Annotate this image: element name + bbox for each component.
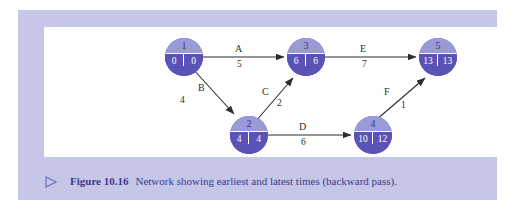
node-2-times: 4 4 xyxy=(230,132,268,154)
edge-a-duration-label: 5 xyxy=(237,60,242,70)
node-4-times: 10 12 xyxy=(354,132,392,154)
edge-f-duration-label: 1 xyxy=(401,101,406,111)
edge-f-line xyxy=(376,78,425,120)
edge-e-duration-label: 7 xyxy=(362,60,367,70)
network-node-4[interactable]: 4 10 12 xyxy=(354,116,392,154)
edge-c-duration-label: 2 xyxy=(277,99,282,109)
figure-number: Figure 10.16 xyxy=(70,175,128,187)
figure-caption-body: Network showing earliest and latest time… xyxy=(135,175,396,187)
node-2-header: 2 xyxy=(230,116,268,132)
edge-c-activity-label: C xyxy=(262,87,269,97)
node-3-times: 6 6 xyxy=(287,54,325,76)
node-1-latest: 0 xyxy=(184,54,203,67)
node-2-number: 2 xyxy=(247,119,252,129)
edge-b-activity-label: B xyxy=(198,83,205,93)
node-3-header: 3 xyxy=(287,38,325,54)
node-4-earliest: 10 xyxy=(354,132,373,145)
edge-c-line xyxy=(256,78,293,121)
node-3-number: 3 xyxy=(304,41,309,51)
figure-frame: 1 0 0 2 4 4 3 xyxy=(18,10,497,200)
network-node-1[interactable]: 1 0 0 xyxy=(165,38,203,76)
node-3-earliest: 6 xyxy=(287,54,306,67)
node-2-latest: 4 xyxy=(249,132,268,145)
node-3-latest: 6 xyxy=(306,54,325,67)
edge-e-activity-label: E xyxy=(360,44,366,54)
network-node-2[interactable]: 2 4 4 xyxy=(230,116,268,154)
node-5-header: 5 xyxy=(419,38,457,54)
node-5-times: 13 13 xyxy=(419,54,457,76)
node-4-number: 4 xyxy=(371,119,376,129)
node-1-header: 1 xyxy=(165,38,203,54)
network-node-5[interactable]: 5 13 13 xyxy=(419,38,457,76)
figure-caption-text: Figure 10.16Network showing earliest and… xyxy=(70,175,397,188)
node-4-latest: 12 xyxy=(373,132,392,145)
triangle-right-icon xyxy=(44,176,58,188)
node-1-times: 0 0 xyxy=(165,54,203,76)
edge-d-activity-label: D xyxy=(299,122,306,132)
edge-b-duration-label: 4 xyxy=(180,96,185,106)
edge-d-duration-label: 6 xyxy=(301,138,306,148)
node-1-earliest: 0 xyxy=(165,54,184,67)
node-2-earliest: 4 xyxy=(230,132,249,145)
figure-container: 1 0 0 2 4 4 3 xyxy=(0,0,515,212)
node-5-earliest: 13 xyxy=(419,54,438,67)
network-node-3[interactable]: 3 6 6 xyxy=(287,38,325,76)
edge-a-activity-label: A xyxy=(235,44,242,54)
network-diagram: 1 0 0 2 4 4 3 xyxy=(44,27,507,157)
node-1-number: 1 xyxy=(182,41,187,51)
node-4-header: 4 xyxy=(354,116,392,132)
node-5-latest: 13 xyxy=(438,54,457,67)
edge-f-activity-label: F xyxy=(384,87,390,97)
figure-caption: Figure 10.16Network showing earliest and… xyxy=(44,165,507,199)
node-5-number: 5 xyxy=(436,41,441,51)
